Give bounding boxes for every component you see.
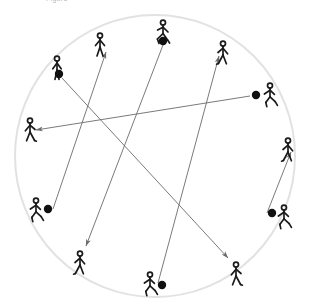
ball-right-lower-with-ball xyxy=(268,209,276,217)
passing-diagram-canvas xyxy=(0,0,310,305)
ball-left-lower-with-ball xyxy=(44,205,52,213)
ball-upper-left-with-ball xyxy=(55,70,63,78)
ball-bottom-with-ball xyxy=(158,281,166,289)
figure-caption: Figure xyxy=(46,0,68,3)
ball-right-upper-with-ball xyxy=(252,91,260,99)
ball-top-with-ball xyxy=(159,37,167,45)
circular-field-outline xyxy=(15,15,295,297)
